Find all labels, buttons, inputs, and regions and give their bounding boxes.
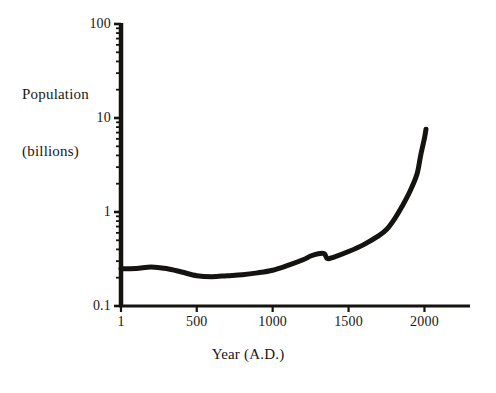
y-tick-label: 10 bbox=[97, 110, 111, 126]
data-series bbox=[121, 129, 426, 277]
population-chart: Population (billions) Year (A.D.) 0.1110… bbox=[0, 0, 496, 393]
series-line bbox=[121, 129, 426, 277]
x-tick-label: 1 bbox=[117, 314, 124, 330]
plot-area bbox=[0, 0, 496, 393]
y-tick-label: 1 bbox=[104, 204, 111, 220]
x-tick-label: 2000 bbox=[410, 314, 439, 330]
x-tick-label: 500 bbox=[186, 314, 208, 330]
y-tick-label: 0.1 bbox=[93, 298, 111, 314]
x-tick-label: 1000 bbox=[258, 314, 287, 330]
x-tick-label: 1500 bbox=[334, 314, 363, 330]
y-tick-label: 100 bbox=[89, 16, 111, 32]
